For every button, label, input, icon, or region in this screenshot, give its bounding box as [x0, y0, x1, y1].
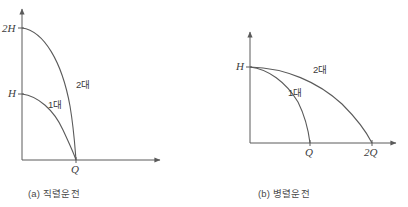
- chart-a-curve-label-2dae: 2대: [76, 77, 90, 91]
- chart-b-x-label-q: Q: [305, 146, 313, 158]
- chart-a-curve-label-1dae: 1대: [48, 97, 62, 111]
- chart-b-axes: [250, 32, 396, 143]
- chart-a-y-label-2h: 2H: [2, 22, 15, 34]
- chart-b-caption: (b) 병렬운전: [258, 186, 310, 200]
- chart-a-axes: [22, 9, 160, 160]
- chart-a-y-label-h: H: [8, 87, 16, 99]
- figure-page: 2H H Q 1대 2대 H Q 2Q 1대 2대 (a) 직렬운전 (b) 병…: [0, 0, 408, 207]
- chart-b-curve-2dae: [250, 67, 372, 143]
- chart-b-curve-label-1dae: 1대: [288, 85, 302, 99]
- chart-a-x-label-q: Q: [71, 163, 79, 175]
- chart-b-y-label-h: H: [236, 60, 244, 72]
- chart-b-curve-label-2dae: 2대: [313, 62, 327, 76]
- chart-b-x-label-2q: 2Q: [364, 146, 377, 158]
- chart-a-caption: (a) 직렬운전: [28, 186, 80, 200]
